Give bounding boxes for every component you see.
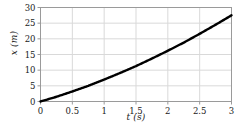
- y-tick-label: 25: [25, 18, 36, 28]
- plot-area: 051015202530 00.511.522.53: [0, 0, 243, 128]
- y-tick-label: 5: [30, 81, 35, 91]
- y-tick-label: 10: [25, 65, 36, 75]
- y-tick-label: 15: [25, 50, 36, 60]
- x-tick-label: 0: [38, 106, 43, 116]
- x-tick-label: 1.5: [129, 106, 143, 116]
- position-time-chart: x (m) t (s) 051015202530 00.511.522.53: [0, 0, 243, 128]
- x-axis-ticks: 00.511.522.53: [38, 102, 234, 116]
- x-tick-label: 2: [165, 106, 170, 116]
- x-tick-label: 3: [229, 106, 234, 116]
- x-tick-label: 1: [101, 106, 106, 116]
- y-tick-label: 0: [30, 97, 35, 107]
- gridlines: [41, 8, 232, 102]
- y-axis-ticks: 051015202530: [25, 3, 41, 107]
- y-tick-label: 30: [25, 3, 36, 13]
- x-tick-label: 0.5: [66, 106, 80, 116]
- y-tick-label: 20: [25, 34, 36, 44]
- x-tick-label: 2.5: [193, 106, 207, 116]
